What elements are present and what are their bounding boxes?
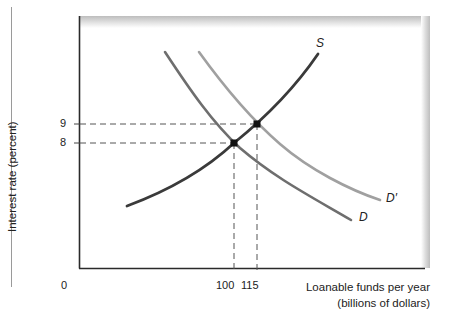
y-tick-label-9: 9 (60, 117, 66, 129)
y-axis-label: Interest rate (percent) (6, 121, 18, 232)
x-tick-label-115: 115 (241, 279, 259, 291)
equilibrium-point-initial (231, 140, 238, 147)
demand-curve (165, 52, 351, 220)
loanable-funds-chart (0, 0, 452, 318)
equilibrium-point-new (254, 121, 261, 128)
demand-shifted-curve (199, 52, 380, 200)
y-tick-label-8: 8 (60, 136, 66, 148)
x-axis-label: Loanable funds per year (billions of dol… (306, 279, 430, 311)
x-axis-label-line2: (billions of dollars) (306, 295, 430, 311)
x-axis-label-line1: Loanable funds per year (306, 279, 430, 295)
x-tick-label-100: 100 (216, 279, 234, 291)
demand-curve-label: D (359, 210, 368, 224)
supply-curve-label: S (316, 36, 324, 50)
origin-label: 0 (61, 279, 67, 291)
demand-shifted-curve-label: D′ (386, 191, 397, 205)
